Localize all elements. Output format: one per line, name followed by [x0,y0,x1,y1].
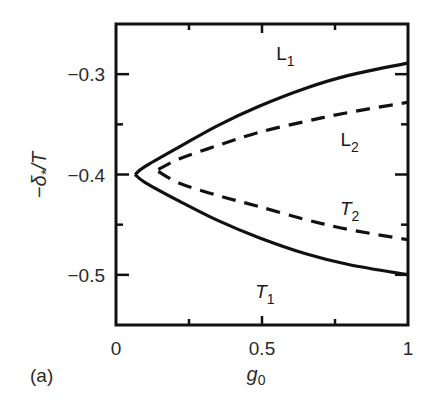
plot-frame [116,24,408,325]
curve-label-t1: T1 [255,281,275,307]
x-axis-label: g0 [247,363,266,388]
curve-label-t2: T2 [340,198,360,224]
y-axis-label: −δ*/T [28,150,54,198]
x-tick-label: 0 [111,338,122,359]
curve-label-l2: L2 [340,129,359,155]
curve-labels: L1L2T2T1 [255,43,359,307]
x-tick-label: 1 [403,338,414,359]
curve-l1 [135,63,408,174]
y-tick-label: −0.3 [67,64,105,85]
curves [135,63,408,275]
x-tick-label: 0.5 [249,338,275,359]
axis-ticks [116,24,408,325]
chart: 00.51−0.3−0.4−0.5 L1L2T2T1 g0 −δ*/T (a) [0,0,431,413]
tick-labels: 00.51−0.3−0.4−0.5 [67,64,413,359]
curve-t1 [135,175,408,275]
panel-label: (a) [30,365,53,386]
curve-t2 [158,171,408,239]
y-tick-label: −0.4 [67,165,105,186]
curve-label-l1: L1 [276,43,295,69]
y-tick-label: −0.5 [67,265,105,286]
